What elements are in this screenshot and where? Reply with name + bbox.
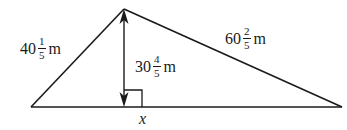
left-side-label: 40 1 5 m (20, 36, 61, 61)
altitude-numerator: 4 (153, 54, 161, 67)
left-side-denominator: 5 (39, 49, 45, 61)
left-side-numerator: 1 (38, 36, 46, 49)
right-angle-marker (124, 90, 142, 107)
right-side-numerator: 2 (243, 26, 251, 39)
right-side-label: 60 2 5 m (225, 26, 266, 51)
altitude-whole: 30 (135, 59, 151, 75)
altitude-fraction: 4 5 (153, 54, 161, 79)
right-side-denominator: 5 (244, 39, 250, 51)
left-side-fraction: 1 5 (38, 36, 46, 61)
right-side-fraction: 2 5 (243, 26, 251, 51)
right-side-whole: 60 (225, 31, 241, 47)
altitude-unit: m (164, 59, 176, 75)
altitude-denominator: 5 (154, 67, 160, 79)
left-side-unit: m (49, 41, 61, 57)
foot-variable-label: x (139, 111, 146, 127)
altitude-label: 30 4 5 m (135, 54, 176, 79)
right-side-unit: m (254, 31, 266, 47)
left-side-whole: 40 (20, 41, 36, 57)
